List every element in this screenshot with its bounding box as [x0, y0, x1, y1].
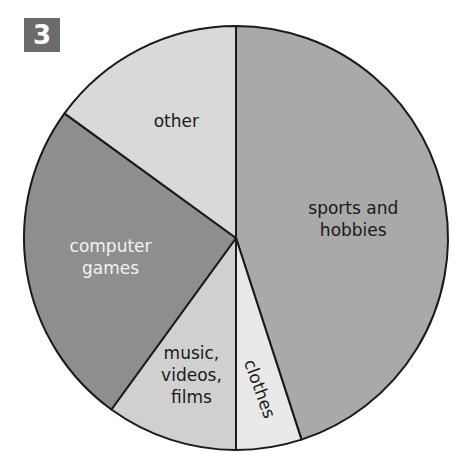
slice-label-line: films [171, 387, 212, 407]
slice-label-line: games [82, 258, 139, 278]
slice-label-line: music, [164, 343, 220, 363]
pie-chart: sports andhobbiesclothesmusic,videos,fil… [0, 0, 465, 466]
slice-label-line: videos, [161, 365, 222, 385]
slice-label-line: computer [70, 236, 152, 256]
slice-label-line: other [154, 111, 199, 131]
slice-label-line: sports and [308, 198, 398, 218]
slice-label-other: other [154, 111, 199, 131]
slice-label-line: hobbies [320, 220, 387, 240]
